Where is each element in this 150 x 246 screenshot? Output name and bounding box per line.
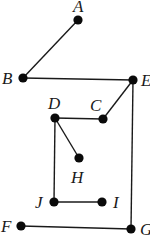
node-label-c: C xyxy=(90,96,102,115)
labels-group: ABEDCHJIFG xyxy=(0,0,150,239)
node-label-d: D xyxy=(47,94,61,113)
edge-a-b xyxy=(23,20,78,78)
edge-e-c xyxy=(103,80,133,119)
edge-e-g xyxy=(131,80,133,229)
node-h xyxy=(74,153,83,162)
edge-f-g xyxy=(21,226,131,229)
node-g xyxy=(126,224,135,233)
node-label-b: B xyxy=(2,69,13,88)
node-label-g: G xyxy=(140,220,150,239)
node-c xyxy=(98,114,107,123)
graph-diagram: ABEDCHJIFG xyxy=(0,0,150,246)
node-label-f: F xyxy=(0,217,12,236)
node-i xyxy=(97,197,106,206)
node-label-e: E xyxy=(140,71,150,90)
edge-d-h xyxy=(55,118,79,158)
node-label-j: J xyxy=(35,193,44,212)
node-label-i: I xyxy=(112,193,120,212)
node-label-a: A xyxy=(72,0,84,16)
node-f xyxy=(16,221,25,230)
node-j xyxy=(49,197,58,206)
node-e xyxy=(128,75,137,84)
node-b xyxy=(18,73,27,82)
edge-b-e xyxy=(23,78,133,80)
node-label-h: H xyxy=(70,168,85,187)
node-d xyxy=(50,113,59,122)
node-a xyxy=(73,15,82,24)
edge-c-d xyxy=(55,118,103,119)
edge-d-j xyxy=(54,118,55,202)
